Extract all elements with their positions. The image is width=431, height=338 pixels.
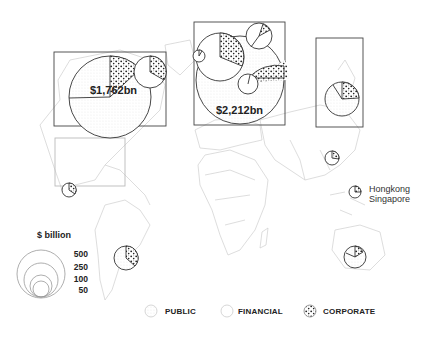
city-label-hongkong: Hongkong (369, 184, 410, 194)
pie-australia (344, 246, 366, 268)
pie-japan (325, 82, 359, 116)
size-legend-500: 500 (64, 249, 88, 259)
size-legend-250: 250 (64, 262, 88, 272)
size-legend-100: 100 (64, 274, 88, 284)
north-america-lower-box (55, 138, 125, 186)
city-label-singapore: Singapore (369, 194, 410, 204)
size-legend-circles (17, 250, 65, 298)
key-public-swatch (145, 305, 157, 317)
key-financial-swatch (221, 305, 233, 317)
key-corporate-label: CORPORATE (323, 307, 375, 316)
europe-total-label: $2,212bn (216, 104, 263, 116)
pie-south-america (114, 246, 138, 270)
key-public-label: PUBLIC (165, 307, 196, 316)
key-financial-label: FINANCIAL (238, 307, 283, 316)
key-corporate-swatch (304, 305, 316, 317)
north-america-total-label: $1,762bn (90, 84, 137, 96)
pie-hongkong-singapore (349, 186, 361, 198)
size-legend-title: $ billion (37, 230, 71, 240)
pie-central-america (62, 183, 76, 197)
pie-east-asia (325, 151, 339, 165)
size-legend-50: 50 (64, 285, 88, 295)
